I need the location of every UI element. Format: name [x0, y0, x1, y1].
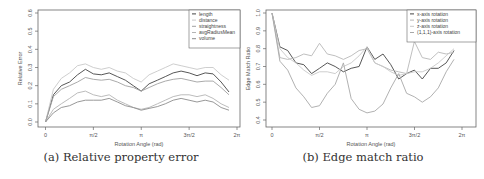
legend-label-length: length [199, 11, 213, 17]
x-tick-label: 0 [44, 132, 47, 138]
x-tick-label: 2π [459, 132, 466, 138]
y-tick-label: 0.2 [27, 82, 33, 90]
chart-panel-edge-match-ratio: 0.40.50.60.70.80.91.00π/2π3π/22πRotation… [242, 0, 484, 179]
x-tick-label: π [365, 132, 369, 138]
legend: lengthdistancestraightnessavgRadiusMeanv… [189, 10, 240, 48]
series-line-avgradiusmean [46, 91, 230, 122]
legend-label-straightness: straightness [199, 23, 226, 29]
chart-panel-relative-property-error: 0.00.10.20.30.40.50.60π/2π3π/22πRotation… [0, 0, 242, 179]
y-axis-label: Edge Match Ratio [245, 47, 251, 91]
legend-label-x-axis-rotation: x-axis rotation [417, 11, 448, 17]
caption-a: (a) Relative property error [0, 150, 242, 164]
y-tick-label: 1.0 [255, 9, 261, 17]
y-tick-label: 0.5 [255, 98, 261, 106]
legend-label-z-axis-rotation: z-axis rotation [417, 23, 448, 29]
series-line-straightness [46, 78, 230, 123]
x-tick-label: 3π/2 [183, 132, 194, 138]
caption-b: (b) Edge match ratio [242, 150, 484, 164]
y-tick-label: 0.0 [27, 118, 33, 126]
legend-label-avgradiusmean: avgRadiusMean [199, 29, 235, 35]
x-axis-label: Rotation Angle (rad) [347, 141, 396, 147]
legend-label-distance: distance [199, 17, 218, 23]
x-tick-label: 2π [234, 132, 241, 138]
legend-label-y-axis-rotation: y-axis rotation [417, 17, 448, 23]
x-tick-label: π/2 [315, 132, 323, 138]
y-tick-label: 0.5 [27, 27, 33, 35]
y-tick-label: 0.4 [27, 46, 33, 54]
x-tick-label: 3π/2 [409, 132, 420, 138]
legend-label-1-1-1-axis-rotation: (1,1,1)-axis rotation [417, 29, 460, 35]
legend: x-axis rotationy-axis rotationz-axis rot… [407, 10, 476, 42]
y-tick-label: 0.3 [27, 64, 33, 72]
x-tick-label: π/2 [89, 132, 97, 138]
y-tick-label: 0.6 [27, 9, 33, 17]
chart-edge-match-ratio: 0.40.50.60.70.80.91.00π/2π3π/22πRotation… [242, 0, 484, 150]
y-tick-label: 0.9 [255, 27, 261, 35]
y-tick-label: 0.8 [255, 45, 261, 53]
x-tick-label: 0 [270, 132, 273, 138]
y-axis-label: Relative Error [17, 52, 23, 86]
y-tick-label: 0.4 [255, 116, 261, 124]
chart-relative-property-error: 0.00.10.20.30.40.50.60π/2π3π/22πRotation… [0, 0, 242, 150]
series-line-volume [46, 98, 230, 122]
legend-label-volume: volume [199, 35, 215, 41]
y-tick-label: 0.1 [27, 100, 33, 108]
y-tick-label: 0.7 [255, 63, 261, 71]
x-axis-label: Rotation Angle (rad) [115, 141, 164, 147]
x-tick-label: π [139, 132, 143, 138]
y-tick-label: 0.6 [255, 81, 261, 89]
series-line-distance [46, 64, 230, 122]
